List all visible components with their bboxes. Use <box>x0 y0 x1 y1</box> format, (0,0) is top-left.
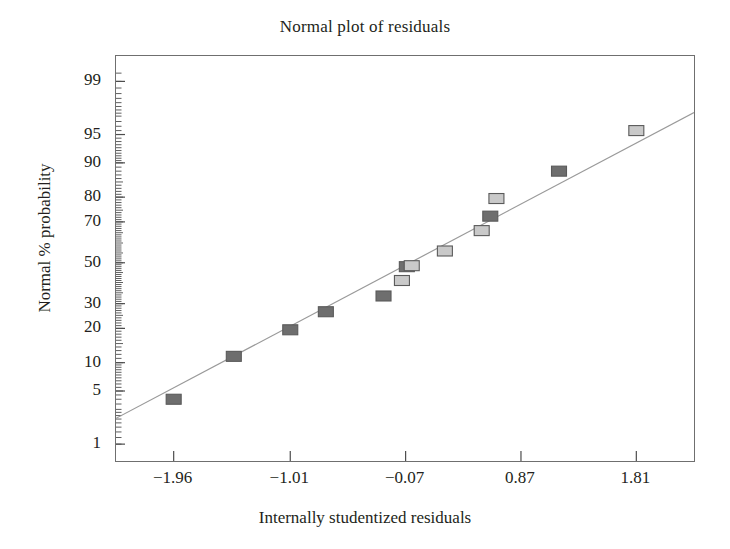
y-axis-tick-label: 70 <box>84 211 101 231</box>
chart-title: Normal plot of residuals <box>0 17 730 37</box>
y-axis-minor-ticks <box>116 73 123 444</box>
y-axis-tick-labels: 99959080705030201051 <box>55 0 101 549</box>
plot-canvas <box>116 56 694 461</box>
data-point-marker <box>483 211 498 221</box>
x-axis-tick-label: 0.87 <box>505 468 535 488</box>
y-axis-tick-label: 90 <box>84 152 101 172</box>
data-point-marker <box>474 226 489 236</box>
y-axis-tick-label: 5 <box>93 380 102 400</box>
y-axis-major-ticks <box>116 81 125 444</box>
y-axis-tick-label: 80 <box>84 186 101 206</box>
y-axis-tick-label: 95 <box>84 124 101 144</box>
data-point-marker <box>376 291 391 301</box>
data-point-marker <box>489 194 504 204</box>
x-axis-title: Internally studentized residuals <box>0 508 730 528</box>
x-axis-ticks <box>174 451 637 461</box>
data-point-marker <box>404 261 419 271</box>
x-axis-tick-label: −1.96 <box>153 468 192 488</box>
data-point-marker <box>394 276 409 286</box>
x-axis-tick-label: −1.01 <box>270 468 309 488</box>
y-axis-tick-label: 30 <box>84 293 101 313</box>
data-point-marker <box>552 166 567 176</box>
y-axis-tick-label: 50 <box>84 252 101 272</box>
normal-probability-plot-figure: Normal plot of residuals Normal % probab… <box>0 0 730 549</box>
y-axis-tick-label: 20 <box>84 317 101 337</box>
y-axis-tick-label: 99 <box>84 70 101 90</box>
x-axis-tick-label: 1.81 <box>620 468 650 488</box>
data-point-marker <box>226 351 241 361</box>
data-points <box>166 126 644 405</box>
y-axis-title: Normal % probability <box>35 108 55 368</box>
data-point-marker <box>437 246 452 256</box>
y-axis-tick-label: 1 <box>93 433 102 453</box>
x-axis-tick-label: −0.07 <box>385 468 424 488</box>
data-point-marker <box>166 394 181 404</box>
data-point-marker <box>629 126 644 136</box>
data-point-marker <box>283 325 298 335</box>
plot-area <box>115 55 695 462</box>
data-point-marker <box>318 307 333 317</box>
y-axis-tick-label: 10 <box>84 352 101 372</box>
